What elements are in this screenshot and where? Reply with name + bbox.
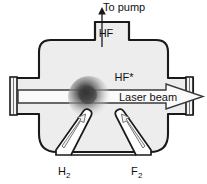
- to-pump-label: To pump: [103, 1, 145, 13]
- left-laser-window: [10, 77, 17, 115]
- fluorine-subscript: 2: [138, 171, 143, 180]
- fluorine-label: F 2: [131, 165, 143, 180]
- chemical-laser-diagram: To pump HF HF* Laser beam H 2 F 2: [0, 0, 207, 184]
- fluorine-symbol: F: [131, 165, 138, 177]
- hydrogen-symbol: H: [58, 165, 66, 177]
- hydrogen-subscript: 2: [66, 171, 71, 180]
- diagram-canvas: To pump HF HF* Laser beam H 2 F 2: [0, 0, 207, 184]
- hf-label: HF: [99, 27, 114, 39]
- hydrogen-label: H 2: [58, 165, 71, 180]
- hf-excited-label: HF*: [115, 71, 135, 83]
- laser-beam-label: Laser beam: [119, 91, 177, 103]
